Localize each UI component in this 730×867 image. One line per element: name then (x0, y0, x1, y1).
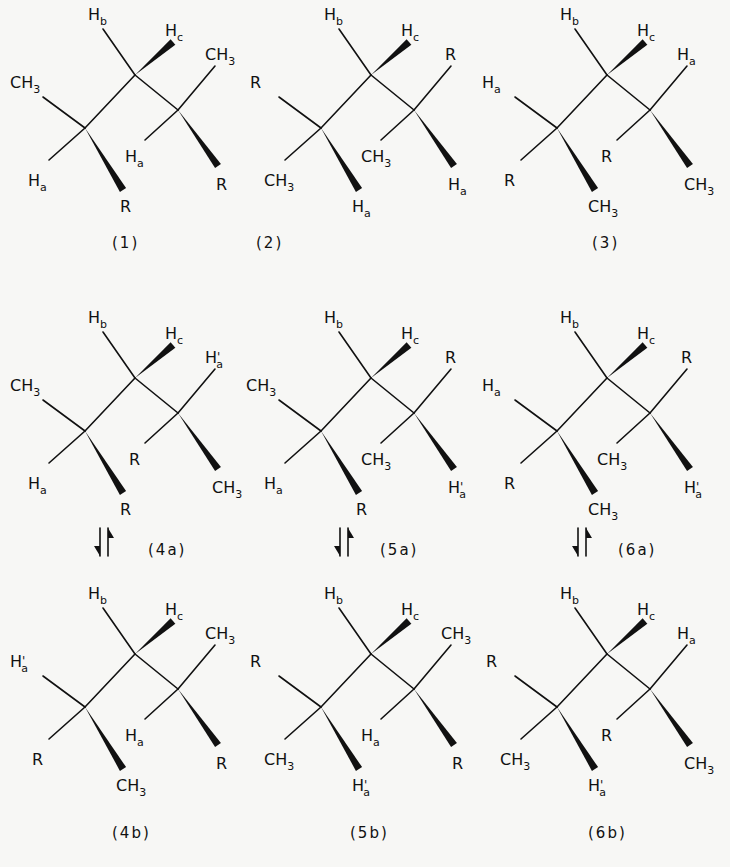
atom-label-c3_upper_right: R (681, 348, 692, 367)
atom-label-c3_down: R (452, 754, 463, 773)
structure-caption: (6b) (588, 824, 627, 842)
atom-label-c1_lower_left: R (32, 750, 43, 769)
atom-label-c1_down: R (120, 500, 131, 519)
atom-label-c1_lower_left: R (504, 171, 515, 190)
structure-caption: (3) (592, 234, 619, 252)
structure-caption: (5b) (350, 824, 389, 842)
atom-label-c1_down: R (356, 500, 367, 519)
atom-label-c3_down: R (216, 754, 227, 773)
structure-caption: (6a) (618, 541, 656, 559)
atom-label-c1_upper_left: R (486, 652, 497, 671)
atom-label-c3_upper_right: R (445, 45, 456, 64)
structure-caption: (4a) (148, 541, 186, 559)
atom-label-c1_upper_left: R (250, 73, 261, 92)
structure-caption: (5a) (380, 541, 418, 559)
structure-caption: (4b) (112, 824, 151, 842)
structure-caption: (2) (256, 234, 283, 252)
atom-label-c1_upper_left: R (250, 652, 261, 671)
atom-label-c3_upper_right: R (445, 348, 456, 367)
atom-label-c3_lower_left: R (129, 450, 140, 469)
structure-caption: (1) (112, 234, 139, 252)
conformation-diagram: CH3HaRHbHcCH3HaR(1)RCH3HaHbHcRCH3Ha(2)Ha… (0, 0, 730, 867)
atom-label-c1_lower_left: R (504, 474, 515, 493)
atom-label-c3_down: R (216, 175, 227, 194)
atom-label-c3_lower_left: R (601, 147, 612, 166)
atom-label-c3_lower_left: R (601, 726, 612, 745)
atom-label-c1_down: R (120, 197, 131, 216)
